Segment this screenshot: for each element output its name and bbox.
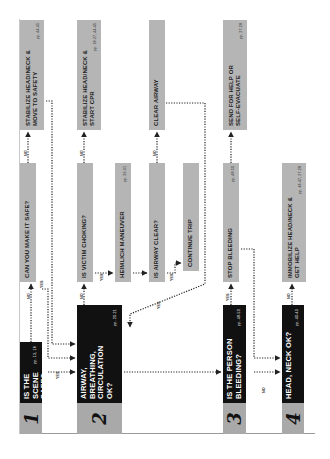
connector-stabilize-to-2: [46, 101, 75, 344]
label-no-2: NO: [80, 293, 84, 299]
flowchart-canvas: 1 IS THE SCENE SAFE? pp. 13, 16 CAN YOU …: [0, 0, 330, 459]
label-no-4: NO: [287, 293, 291, 299]
label-yes-3: YES: [226, 293, 230, 301]
label-yes-2: YES: [157, 301, 161, 309]
label-yes-airway: YES: [170, 273, 174, 281]
label-no-3: NO: [262, 387, 266, 393]
label-no-safe: NO: [24, 150, 28, 156]
connector-safe-yes: [42, 289, 75, 358]
label-yes-choking: YES: [100, 273, 104, 281]
connector-bleeding-to-4: [241, 249, 280, 358]
label-no-1: NO: [27, 293, 31, 299]
connector-airway-yes: [167, 263, 181, 273]
connectors: [0, 0, 330, 459]
connector-clear-to-2: [130, 103, 205, 327]
label-no-choking: NO: [80, 150, 84, 156]
label-no-airway: NO: [153, 150, 157, 156]
label-yes-1: YES: [56, 371, 60, 379]
label-yes-safe: YES: [40, 280, 44, 288]
